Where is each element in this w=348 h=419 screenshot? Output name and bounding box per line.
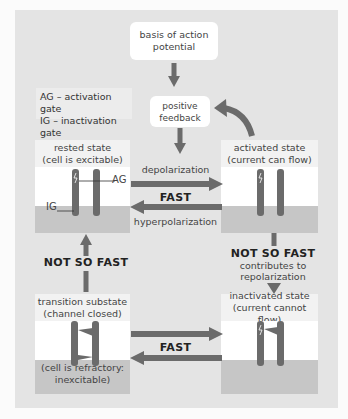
activation-gate-icon bbox=[258, 173, 264, 183]
inactivated-state-panel: inactivated state (current cannot flow) bbox=[221, 294, 318, 394]
channel-right-wall bbox=[92, 321, 99, 366]
ag-label: AG bbox=[112, 174, 126, 186]
inactivated-line1: inactivated state bbox=[221, 290, 318, 302]
left-not-so-fast-label: NOT SO FAST bbox=[35, 256, 137, 269]
rested-state-panel: rested state (cell is excitable) AG IG bbox=[35, 140, 130, 233]
feedback-line1: positive bbox=[162, 100, 197, 112]
cytoplasm-band: (cell is refractory: inexcitable) bbox=[35, 360, 130, 394]
action-potential-line1: basis of action bbox=[140, 29, 209, 41]
channel-right-wall bbox=[277, 169, 284, 216]
refractory-line2: inexcitable) bbox=[35, 374, 130, 386]
transition-substate-panel: transition substate (channel closed) (ce… bbox=[35, 294, 130, 394]
refractory-note: (cell is refractory: inexcitable) bbox=[35, 360, 130, 386]
activated-line2: (current can flow) bbox=[221, 154, 318, 166]
feedback-line2: feedback bbox=[159, 112, 200, 124]
arrow-left-icon bbox=[130, 351, 222, 365]
arrow-right-icon bbox=[131, 327, 223, 341]
ig-pointer-line bbox=[57, 210, 75, 214]
transition-line1: transition substate bbox=[35, 296, 130, 308]
legend-ag: AG – activation gate bbox=[40, 91, 128, 115]
action-potential-line2: potential bbox=[153, 41, 195, 53]
gate-closed-icon bbox=[264, 327, 278, 335]
positive-feedback-box: positive feedback bbox=[150, 96, 210, 127]
transition-state-label: transition substate (channel closed) bbox=[35, 294, 130, 321]
arrow-down-icon bbox=[174, 128, 186, 156]
depolarization-label: depolarization bbox=[130, 164, 221, 176]
channel-right-wall bbox=[277, 321, 284, 366]
right-not-so-fast-label: NOT SO FAST bbox=[222, 247, 324, 260]
arrow-left-icon bbox=[130, 200, 222, 214]
rested-line2: (cell is excitable) bbox=[35, 154, 130, 166]
cytoplasm-band bbox=[221, 360, 318, 394]
legend-ig: IG – inactivation gate bbox=[40, 115, 128, 139]
ig-label: IG bbox=[46, 201, 57, 213]
legend-box: AG – activation gate IG – inactivation g… bbox=[36, 88, 132, 119]
activated-line1: activated state bbox=[221, 142, 318, 154]
arrow-up-icon bbox=[80, 234, 92, 256]
rested-state-label: rested state (cell is excitable) bbox=[35, 140, 130, 167]
refractory-line1: (cell is refractory: bbox=[35, 362, 130, 374]
cytoplasm-band bbox=[221, 206, 318, 233]
ag-pointer-line bbox=[79, 179, 115, 183]
activated-state-panel: activated state (current can flow) bbox=[221, 140, 318, 233]
channel-left-wall bbox=[71, 321, 78, 366]
arrow-right-icon bbox=[131, 177, 223, 191]
inactivation-gate-closed-icon bbox=[78, 353, 93, 361]
channel-right-wall bbox=[93, 169, 100, 216]
arrow-shaft bbox=[80, 271, 92, 293]
hyperpolarization-label: hyperpolarization bbox=[130, 216, 221, 228]
membrane-band bbox=[221, 167, 318, 206]
feedback-curved-arrow-icon bbox=[212, 96, 258, 138]
activation-gate-closed-icon bbox=[78, 328, 93, 336]
repolarization-label: repolarization bbox=[222, 271, 324, 283]
activated-state-label: activated state (current can flow) bbox=[221, 140, 318, 167]
inactivated-state-label: inactivated state (current cannot flow) bbox=[221, 294, 318, 321]
rested-line1: rested state bbox=[35, 142, 130, 154]
transition-line2: (channel closed) bbox=[35, 308, 130, 320]
arrow-down-icon bbox=[168, 63, 180, 89]
action-potential-box: basis of action potential bbox=[130, 22, 218, 60]
